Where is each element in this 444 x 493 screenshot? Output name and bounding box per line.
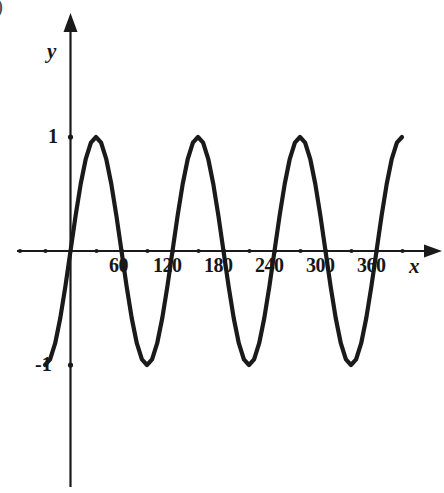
x-tick-dot [349,249,353,253]
x-axis-label: x [409,256,420,277]
y-tick-label-neg1: -1 [35,354,52,374]
x-tick-dot [18,249,22,253]
y-tick-dot-positive-one [68,134,73,139]
x-tick-dot [43,249,47,253]
x-tick-label-360: 360 [357,255,386,275]
chart-figure: ) 1 -1 60 1 [0,0,444,493]
y-tick-label-1: 1 [48,126,58,146]
x-tick-label-240: 240 [255,255,284,275]
x-tick-dot [247,249,251,253]
x-tick-dot [196,249,200,253]
y-tick-dot-negative-one [68,362,73,367]
x-tick-label-60: 60 [109,255,128,275]
x-tick-dot [94,249,98,253]
y-axis-arrowhead [64,13,78,32]
y-axis-label: y [47,41,56,62]
plot-canvas [0,0,444,493]
x-tick-dot [145,249,149,253]
x-tick-dot [400,249,404,253]
x-tick-label-300: 300 [306,255,335,275]
x-tick-label-180: 180 [204,255,233,275]
x-tick-label-120: 120 [153,255,182,275]
x-tick-dot [298,249,302,253]
x-axis-arrowhead [424,245,442,258]
